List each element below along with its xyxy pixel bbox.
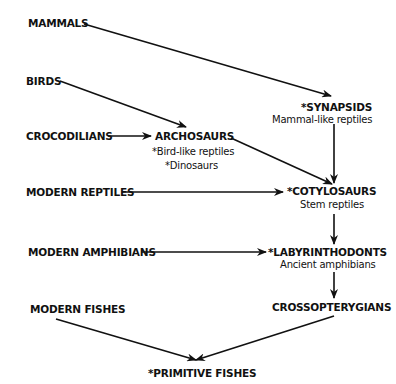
synapsids-subtitle: Mammal-like reptiles <box>272 114 372 126</box>
node-mammals: MAMMALS <box>28 17 88 29</box>
node-crossopterygians: CROSSOPTERYGIANS <box>272 301 391 313</box>
node-archosaurs: ARCHOSAURS <box>155 130 234 142</box>
node-crocodilians: CROCODILIANS <box>26 130 113 142</box>
archosaurs-note-dinosaurs: *Dinosaurs <box>165 160 218 172</box>
node-birds: BIRDS <box>26 75 61 87</box>
cotylosaurs-subtitle: Stem reptiles <box>300 199 364 211</box>
arrow-cotylosaurs-to-archosaurs <box>231 138 332 184</box>
node-primitive-fishes: *PRIMITIVE FISHES <box>148 367 256 379</box>
arrow-primitive-to-crossopterygians <box>196 316 334 360</box>
labyrinthodonts-subtitle: Ancient amphibians <box>280 259 376 271</box>
node-modern-amphibians: MODERN AMPHIBIANS <box>28 246 156 258</box>
node-modern-fishes: MODERN FISHES <box>30 303 125 315</box>
node-modern-reptiles: MODERN REPTILES <box>26 186 134 198</box>
node-synapsids: *SYNAPSIDS <box>301 101 372 113</box>
archosaurs-note-birdlike: *Bird-like reptiles <box>152 146 234 158</box>
arrow-synapsids-to-mammals <box>84 24 331 96</box>
arrow-archosaurs-to-birds <box>60 81 186 127</box>
node-labyrinthodonts: *LABYRINTHODONTS <box>268 246 387 258</box>
arrow-primitive-to-modern-fishes <box>56 319 196 360</box>
node-cotylosaurs: *COTYLOSAURS <box>287 185 376 197</box>
